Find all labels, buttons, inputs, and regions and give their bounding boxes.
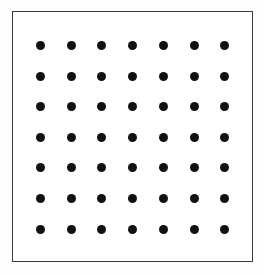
- grid-dot: [190, 225, 199, 234]
- grid-dot: [67, 102, 76, 111]
- grid-dot: [67, 41, 76, 50]
- grid-dot: [97, 163, 106, 172]
- grid-dot: [36, 41, 45, 50]
- grid-dot: [220, 102, 229, 111]
- grid-dot: [190, 102, 199, 111]
- grid-dot: [97, 133, 106, 142]
- grid-dot: [128, 194, 137, 203]
- grid-dot: [159, 102, 168, 111]
- grid-dot: [190, 194, 199, 203]
- grid-dot: [128, 133, 137, 142]
- grid-dot: [67, 225, 76, 234]
- grid-dot: [159, 41, 168, 50]
- grid-dot: [159, 163, 168, 172]
- grid-dot: [128, 225, 137, 234]
- grid-dot: [220, 41, 229, 50]
- grid-dot: [97, 194, 106, 203]
- grid-dot: [190, 72, 199, 81]
- grid-dot: [190, 133, 199, 142]
- grid-dot: [36, 225, 45, 234]
- grid-dot: [97, 102, 106, 111]
- grid-dot: [220, 225, 229, 234]
- grid-dot: [67, 194, 76, 203]
- grid-dot: [36, 194, 45, 203]
- grid-dot: [220, 163, 229, 172]
- grid-dot: [220, 72, 229, 81]
- grid-dot: [67, 72, 76, 81]
- grid-dot: [97, 225, 106, 234]
- grid-dot: [97, 72, 106, 81]
- grid-dot: [190, 163, 199, 172]
- grid-dot: [36, 102, 45, 111]
- grid-dot: [36, 163, 45, 172]
- grid-dot: [128, 163, 137, 172]
- grid-dot: [67, 163, 76, 172]
- grid-dot: [220, 194, 229, 203]
- grid-dot: [159, 194, 168, 203]
- grid-dot: [159, 72, 168, 81]
- grid-dot: [159, 133, 168, 142]
- grid-dot: [220, 133, 229, 142]
- grid-dot: [159, 225, 168, 234]
- grid-dot: [128, 72, 137, 81]
- figure-root: [0, 0, 265, 275]
- grid-dot: [97, 41, 106, 50]
- grid-dot: [67, 133, 76, 142]
- grid-dot: [190, 41, 199, 50]
- grid-dot: [36, 72, 45, 81]
- grid-dot: [36, 133, 45, 142]
- grid-dot: [128, 41, 137, 50]
- dot-grid: [0, 0, 265, 275]
- grid-dot: [128, 102, 137, 111]
